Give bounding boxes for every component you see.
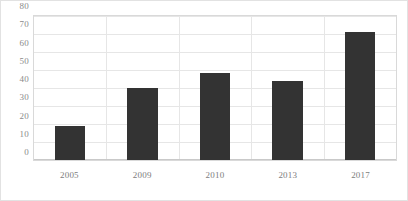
y-tick-label: 0	[24, 148, 29, 157]
y-tick-label: 20	[20, 111, 29, 120]
y-tick-label: 70	[20, 20, 29, 29]
bar-2017[interactable]	[345, 32, 375, 160]
plot-area	[33, 15, 397, 161]
bar-2009[interactable]	[127, 88, 157, 160]
x-tick-label: 2009	[106, 168, 179, 182]
bar-chart-figure: 01020304050607080 20052009201020132017	[0, 0, 408, 201]
bar-slot	[251, 16, 323, 160]
bar-2010[interactable]	[200, 73, 230, 160]
bar-slot	[324, 16, 396, 160]
y-tick-label: 40	[20, 75, 29, 84]
x-tick-label: 2017	[324, 168, 397, 182]
y-tick-label: 30	[20, 93, 29, 102]
bar-slot	[179, 16, 251, 160]
y-tick-label: 80	[20, 2, 29, 11]
x-tick-label: 2013	[251, 168, 324, 182]
y-tick-label: 60	[20, 38, 29, 47]
x-tick-label: 2010	[179, 168, 252, 182]
y-tick-label: 10	[20, 129, 29, 138]
bars-layer	[34, 16, 396, 160]
bar-2013[interactable]	[272, 81, 302, 160]
bar-2005[interactable]	[55, 126, 85, 160]
bar-slot	[106, 16, 178, 160]
y-axis: 01020304050607080	[1, 15, 29, 161]
y-tick-label: 50	[20, 56, 29, 65]
plot-wrapper	[33, 15, 397, 161]
x-tick-label: 2005	[33, 168, 106, 182]
x-axis: 20052009201020132017	[33, 168, 397, 182]
bar-slot	[34, 16, 106, 160]
